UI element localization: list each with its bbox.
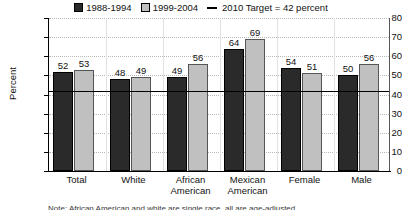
- x-tick-label-line: American: [211, 186, 285, 197]
- bar-group: 5451: [277, 18, 334, 171]
- x-tick-label: Male: [325, 175, 399, 186]
- bar-value-label: 49: [164, 66, 190, 76]
- bar: [302, 73, 322, 171]
- bar-value-label: 69: [242, 28, 268, 38]
- bar-value-label: 50: [335, 64, 361, 74]
- bar-value-label: 51: [299, 62, 325, 72]
- bar-group: 5253: [49, 18, 106, 171]
- bar-chart: 1988-1994 1999-2004 2010 Target = 42 per…: [0, 0, 402, 210]
- target-line-mark-icon: [207, 7, 217, 9]
- bar-value-label: 53: [71, 59, 97, 69]
- bar: [359, 64, 379, 171]
- bar: [188, 64, 208, 171]
- plot-area: 525348494956646954515056: [48, 18, 390, 171]
- y-axis-title: Percent: [7, 54, 18, 114]
- legend-item-1999-2004: 1999-2004: [141, 3, 198, 13]
- series1-swatch-icon: [74, 3, 83, 12]
- bar-group: 6469: [220, 18, 277, 171]
- bar-group: 5056: [334, 18, 391, 171]
- bar: [224, 49, 244, 171]
- bar: [74, 70, 94, 171]
- bar-value-label: 49: [128, 66, 154, 76]
- bar-value-label: 64: [221, 38, 247, 48]
- x-tick-label-line: Male: [325, 175, 399, 186]
- x-axis-baseline: [44, 171, 391, 172]
- bar-group: 4956: [163, 18, 220, 171]
- legend-label-target: 2010 Target = 42 percent: [222, 3, 328, 13]
- legend-label-series2: 1999-2004: [153, 3, 198, 13]
- bar: [281, 68, 301, 171]
- chart-footnote: Note: African American and white are sin…: [48, 204, 398, 210]
- legend-item-1988-1994: 1988-1994: [74, 3, 131, 13]
- bar: [110, 79, 130, 171]
- bar-value-label: 56: [356, 53, 382, 63]
- bar-value-label: 56: [185, 53, 211, 63]
- legend-item-target-line: 2010 Target = 42 percent: [207, 3, 328, 13]
- bar: [245, 39, 265, 171]
- series2-swatch-icon: [141, 3, 150, 12]
- legend-label-series1: 1988-1994: [86, 3, 131, 13]
- bar-group: 4849: [106, 18, 163, 171]
- bar: [53, 72, 73, 171]
- chart-legend: 1988-1994 1999-2004 2010 Target = 42 per…: [0, 0, 402, 15]
- target-reference-line: [49, 91, 389, 92]
